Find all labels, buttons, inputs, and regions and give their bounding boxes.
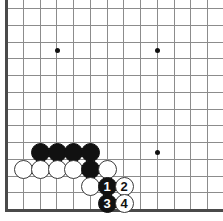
stone-black-a xyxy=(31,143,50,162)
stone-move-number: 4 xyxy=(120,196,127,209)
grid-line-vertical xyxy=(207,0,208,209)
stone-move-3: 3 xyxy=(98,194,117,213)
stone-black-d xyxy=(81,143,100,162)
stone-white-f xyxy=(81,177,100,196)
star-point-upper-right xyxy=(155,48,160,53)
stone-black-c xyxy=(64,143,83,162)
go-board-diagram: 1234 xyxy=(0,0,223,221)
stone-move-number: 1 xyxy=(103,179,110,192)
grid-line-horizontal xyxy=(6,75,223,76)
grid-line-horizontal xyxy=(6,125,223,126)
board-edge-left xyxy=(5,0,8,211)
star-point-lower-right xyxy=(155,150,160,155)
grid-line-vertical xyxy=(157,0,158,209)
stone-black-e xyxy=(81,160,100,179)
grid-line-horizontal xyxy=(6,8,223,9)
stone-white-a xyxy=(14,160,33,179)
grid-line-vertical xyxy=(174,0,175,209)
grid-line-horizontal xyxy=(6,58,223,59)
stone-move-2: 2 xyxy=(115,177,134,196)
stone-white-d xyxy=(64,160,83,179)
grid-line-horizontal xyxy=(6,42,223,43)
grid-line-vertical xyxy=(190,0,191,209)
stone-move-number: 2 xyxy=(120,179,127,192)
stone-white-b xyxy=(31,160,50,179)
stone-white-e xyxy=(98,160,117,179)
grid-line-horizontal xyxy=(6,25,223,26)
stone-move-4: 4 xyxy=(115,194,134,213)
stone-move-1: 1 xyxy=(98,177,117,196)
grid-line-horizontal xyxy=(6,92,223,93)
grid-line-vertical xyxy=(140,0,141,209)
star-point-upper-left xyxy=(55,48,60,53)
stone-move-number: 3 xyxy=(103,196,110,209)
grid-line-horizontal xyxy=(6,109,223,110)
